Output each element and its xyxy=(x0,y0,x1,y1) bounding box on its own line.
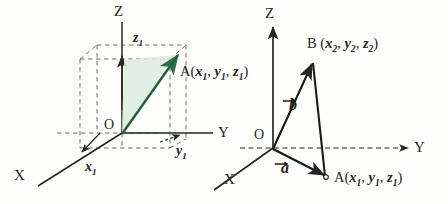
left-x-axis-label: X xyxy=(14,168,25,183)
geometry-figure: Z Y X O z1 y1 x1 A(x1, y1, z1) Z Y X O B… xyxy=(0,0,448,204)
right-segment-AB xyxy=(313,63,325,176)
left-z-axis-label: Z xyxy=(114,4,123,19)
right-x-axis-label: X xyxy=(224,172,235,187)
left-y-axis-label: Y xyxy=(218,125,229,140)
right-point-A-dot xyxy=(324,175,329,180)
vector-arrow-icon xyxy=(282,97,297,104)
left-point-A-label: A(x1, y1, z1) xyxy=(180,64,248,81)
right-y-axis-label: Y xyxy=(414,140,425,155)
right-vector-b-label: b xyxy=(289,97,297,113)
right-origin-label: O xyxy=(254,128,264,142)
vector-arrow-icon xyxy=(274,160,289,167)
left-origin-label: O xyxy=(104,118,114,132)
right-x-axis xyxy=(214,148,273,190)
right-vector-a-label: a xyxy=(281,160,289,176)
left-y1-label: y1 xyxy=(176,144,187,161)
right-point-B-label: B (x2, y2, z2) xyxy=(307,36,378,53)
right-z-axis-label: Z xyxy=(265,6,274,21)
left-x1-label: x1 xyxy=(85,160,97,177)
left-z1-label: z1 xyxy=(133,31,143,48)
right-point-A-label: A(x1, y1, z1) xyxy=(334,170,402,187)
